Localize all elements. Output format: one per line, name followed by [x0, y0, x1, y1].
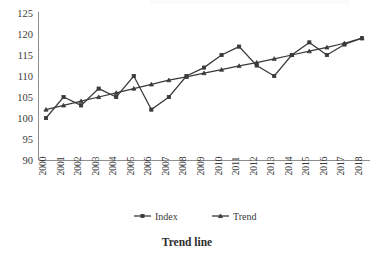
- data-point-marker: [141, 214, 144, 217]
- x-axis-tick-label: 2003: [91, 156, 101, 175]
- chart-legend: IndexTrend: [134, 211, 257, 222]
- y-axis-tick-label: 90: [23, 155, 34, 166]
- x-axis-tick-label: 2004: [108, 156, 118, 175]
- data-point-marker: [132, 74, 135, 77]
- data-point-marker: [325, 53, 328, 56]
- x-axis-tick-label: 2012: [249, 156, 259, 175]
- x-axis-tick-label: 2002: [73, 156, 83, 175]
- x-axis-tick-label: 2015: [301, 156, 311, 175]
- legend-item-index[interactable]: Index: [134, 211, 178, 222]
- x-axis-tick-labels: 2000200120022003200420052006200720082009…: [38, 156, 364, 175]
- legend-label: Trend: [233, 211, 257, 222]
- data-point-marker: [167, 95, 170, 98]
- data-point-marker: [220, 53, 223, 56]
- x-axis-tick-label: 2008: [178, 156, 188, 175]
- chart-canvas: 1251201151101051009590 20002001200220032…: [0, 0, 374, 260]
- data-point-marker: [62, 95, 65, 98]
- x-axis-tick-label: 2014: [284, 156, 294, 175]
- y-axis-tick-label: 110: [18, 71, 33, 82]
- data-point-marker: [115, 95, 118, 98]
- legend-label: Index: [155, 211, 178, 222]
- data-point-marker: [273, 74, 276, 77]
- x-axis-tick-label: 2011: [231, 156, 241, 175]
- y-axis-tick-label: 120: [17, 29, 33, 40]
- series-index: [44, 37, 363, 120]
- y-axis-tick-label: 115: [18, 50, 33, 61]
- x-axis-tick-label: 2000: [38, 156, 48, 175]
- x-axis-tick-label: 2013: [266, 156, 276, 175]
- x-axis-tick-label: 2001: [56, 156, 66, 175]
- data-point-marker: [202, 66, 205, 69]
- chart-title: Trend line: [162, 236, 212, 248]
- x-axis-tick-label: 2018: [354, 156, 364, 175]
- trend-line-chart: 1251201151101051009590 20002001200220032…: [0, 0, 374, 260]
- data-point-marker: [80, 104, 83, 107]
- chart-series-group: [44, 36, 364, 120]
- data-point-marker: [44, 116, 47, 119]
- x-axis-tick-label: 2010: [214, 156, 224, 175]
- y-axis-tick-label: 125: [17, 8, 33, 19]
- x-axis-tick-label: 2007: [161, 156, 171, 175]
- y-axis-tick-label: 105: [17, 92, 33, 103]
- data-point-marker: [308, 41, 311, 44]
- y-axis-tick-label: 95: [23, 134, 34, 145]
- x-axis-tick-label: 2017: [336, 156, 346, 175]
- data-point-marker: [97, 87, 100, 90]
- y-axis-tick-label: 100: [17, 113, 33, 124]
- data-point-marker: [238, 45, 241, 48]
- x-axis-tick-label: 2016: [319, 156, 329, 175]
- x-axis-tick-label: 2009: [196, 156, 206, 175]
- x-axis-tick-label: 2006: [143, 156, 153, 175]
- y-axis-tick-labels: 1251201151101051009590: [17, 8, 33, 166]
- x-axis-tick-label: 2005: [126, 156, 136, 175]
- data-point-marker: [150, 108, 153, 111]
- legend-item-trend[interactable]: Trend: [212, 211, 257, 222]
